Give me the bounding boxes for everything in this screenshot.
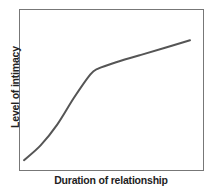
x-axis-label: Duration of relationship	[19, 174, 203, 186]
y-axis-label: Level of intimacy	[9, 32, 23, 142]
plot-frame	[20, 10, 204, 171]
chart-plot	[0, 0, 209, 188]
